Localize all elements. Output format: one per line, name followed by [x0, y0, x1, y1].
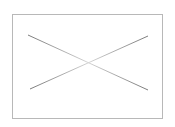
image-placeholder-icon: [0, 0, 175, 127]
placeholder-canvas: [0, 0, 175, 127]
